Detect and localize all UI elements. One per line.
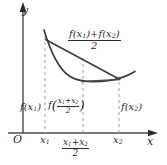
average-value-denominator: 2 (68, 41, 121, 52)
midpoint-num-b-sub: 2 (76, 100, 79, 105)
x-tick-x1-subscript: 1 (46, 138, 50, 145)
convex-function-figure: y x O x1 x2 x1+x2 2 f(x1) f(x2) f(x1)+f(… (0, 0, 167, 165)
average-f2-close: ) (116, 28, 120, 39)
f-of-x2-label: f(x2) (121, 102, 142, 113)
x-tick-label-x2: x2 (113, 135, 123, 146)
midpoint-value-label: f(x1+x22) (48, 97, 85, 114)
midpoint-inline-denominator: 2 (57, 107, 80, 115)
x-tick-label-midpoint: x1+x2 2 (62, 138, 89, 159)
f-of-x2-close-paren: ) (138, 101, 142, 112)
x-tick-x2-subscript: 2 (119, 138, 123, 145)
average-value-label: f(x1)+f(x2) 2 (68, 29, 121, 51)
y-axis (20, 2, 27, 133)
midpoint-close-paren: ) (79, 98, 84, 113)
x-axis-label: x (147, 136, 153, 147)
x-tick-midpoint-num-b-sub: 2 (84, 141, 88, 147)
x-tick-midpoint-denominator: 2 (62, 149, 89, 158)
midpoint-inline-fraction: x1+x22 (57, 97, 80, 114)
f-of-x1-label: f(x1) (20, 102, 41, 113)
origin-label: O (13, 134, 22, 145)
x-tick-label-x1: x1 (40, 135, 50, 146)
y-axis-label: y (22, 5, 28, 16)
f-of-x1-close-paren: ) (37, 101, 41, 112)
